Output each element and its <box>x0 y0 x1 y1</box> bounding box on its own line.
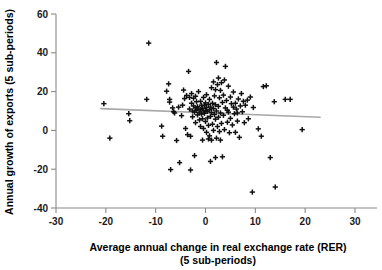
data-point-marker <box>170 105 175 110</box>
x-tick-label: -10 <box>148 216 163 227</box>
data-point-marker <box>272 99 277 104</box>
y-tick-label: -40 <box>34 203 49 214</box>
x-axis-title-line1: Average annual change in real exchange r… <box>90 241 347 253</box>
data-point-marker <box>235 118 240 123</box>
data-point-marker <box>217 129 222 134</box>
data-point-marker <box>146 41 151 46</box>
data-point-marker <box>256 126 261 131</box>
data-point-marker <box>238 103 243 108</box>
data-point-marker <box>230 122 235 127</box>
y-tick-label: -20 <box>34 164 49 175</box>
data-point-marker <box>221 92 226 97</box>
data-point-marker <box>248 94 253 99</box>
data-point-marker <box>226 84 231 89</box>
data-point-marker <box>231 89 236 94</box>
data-point-marker <box>283 97 288 102</box>
y-axis-title: Annual growth of exports (5 sub-periods) <box>3 9 15 215</box>
data-point-marker <box>196 89 201 94</box>
data-point-marker <box>239 91 244 96</box>
data-point-marker <box>268 155 273 160</box>
x-axis-title-line2: (5 sub-periods) <box>180 254 256 266</box>
data-point-marker <box>193 120 198 125</box>
y-tick-label: 60 <box>37 9 49 20</box>
data-point-marker <box>213 155 218 160</box>
data-point-marker <box>190 114 195 119</box>
data-point-marker <box>167 97 172 102</box>
data-point-marker <box>288 97 293 102</box>
data-point-marker <box>188 167 193 172</box>
data-point-marker <box>192 153 197 158</box>
data-point-marker <box>237 135 242 140</box>
data-point-marker <box>126 111 131 116</box>
x-tick-label: -20 <box>99 216 114 227</box>
data-point-marker <box>211 79 216 84</box>
data-point-marker <box>236 96 241 101</box>
data-point-marker <box>223 64 228 69</box>
data-point-marker <box>233 130 238 135</box>
data-point-marker <box>220 154 225 159</box>
data-point-marker <box>242 120 247 125</box>
data-point-marker <box>261 84 266 89</box>
data-point-marker <box>166 81 171 86</box>
data-point-marker <box>273 184 278 189</box>
data-point-marker <box>250 189 255 194</box>
data-point-marker <box>174 138 179 143</box>
data-point-marker <box>215 124 220 129</box>
data-point-marker <box>144 97 149 102</box>
chart-canvas: -40-200204060-30-20-100102030 Average an… <box>0 0 382 270</box>
data-point-marker <box>200 138 205 143</box>
data-point-marker <box>168 167 173 172</box>
data-point-marker <box>212 93 217 98</box>
data-point-marker <box>127 118 132 123</box>
x-tick-label: 30 <box>349 216 361 227</box>
data-point-marker <box>204 130 209 135</box>
x-tick-label: 20 <box>300 216 312 227</box>
y-tick-label: 20 <box>37 86 49 97</box>
data-point-marker <box>107 136 112 141</box>
data-point-marker <box>208 159 213 164</box>
data-point-marker <box>214 60 219 65</box>
data-point-marker <box>227 130 232 135</box>
data-point-marker <box>201 95 206 100</box>
x-tick-label: 10 <box>250 216 262 227</box>
data-points <box>101 41 305 195</box>
data-point-marker <box>228 94 233 99</box>
data-point-marker <box>101 101 106 106</box>
y-tick-label: 0 <box>42 125 48 136</box>
data-point-marker <box>219 121 224 126</box>
data-point-marker <box>232 111 237 116</box>
data-point-marker <box>159 124 164 129</box>
data-point-marker <box>264 83 269 88</box>
data-point-marker <box>204 92 209 97</box>
data-point-marker <box>217 95 222 100</box>
data-point-marker <box>228 116 233 121</box>
data-point-marker <box>246 116 251 121</box>
data-point-marker <box>259 134 264 139</box>
data-point-marker <box>222 77 227 82</box>
y-tick-label: 40 <box>37 47 49 58</box>
data-point-marker <box>300 127 305 132</box>
data-point-marker <box>225 120 230 125</box>
data-point-marker <box>207 97 212 102</box>
data-point-marker <box>160 134 165 139</box>
data-point-marker <box>183 126 188 131</box>
data-point-marker <box>218 88 223 93</box>
scatter-plot-figure: -40-200204060-30-20-100102030 Average an… <box>0 0 382 270</box>
data-point-marker <box>222 127 227 132</box>
data-point-marker <box>179 113 184 118</box>
data-point-marker <box>198 99 203 104</box>
data-point-marker <box>177 160 182 165</box>
x-tick-label: 0 <box>203 216 209 227</box>
axis-tick-labels: -40-200204060-30-20-100102030 <box>34 9 361 228</box>
data-point-marker <box>211 128 216 133</box>
data-point-marker <box>216 75 221 80</box>
x-tick-label: -30 <box>49 216 64 227</box>
data-point-marker <box>164 89 169 94</box>
data-point-marker <box>181 87 186 92</box>
data-point-marker <box>251 105 256 110</box>
data-point-marker <box>186 69 191 74</box>
